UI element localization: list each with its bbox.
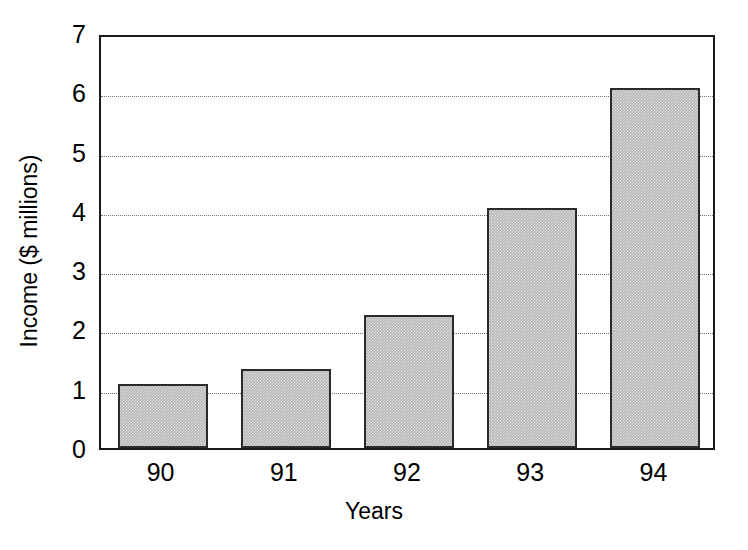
- x-tick-label: 90: [101, 460, 221, 485]
- y-tick-label: 4: [26, 200, 86, 225]
- plot-area: [99, 35, 715, 450]
- y-tick-label: 0: [26, 437, 86, 462]
- y-tick-label: 1: [26, 378, 86, 403]
- bar-90: [118, 384, 208, 448]
- x-axis-title: Years: [0, 500, 748, 523]
- y-tick-label: 6: [26, 81, 86, 106]
- bar-92: [364, 315, 454, 448]
- bar-93: [487, 208, 577, 448]
- x-tick-label: 92: [347, 460, 467, 485]
- y-tick-label: 3: [26, 259, 86, 284]
- x-tick-label: 94: [593, 460, 713, 485]
- bars: [101, 37, 713, 448]
- bar-chart: Income ($ millions) 01234567 9091929394 …: [0, 0, 748, 550]
- y-tick-label: 2: [26, 318, 86, 343]
- bar-94: [610, 88, 700, 448]
- x-axis-tick-labels: 9091929394: [0, 460, 748, 494]
- bar-91: [241, 369, 331, 448]
- y-tick-label: 7: [26, 22, 86, 47]
- x-tick-label: 91: [224, 460, 344, 485]
- x-tick-label: 93: [470, 460, 590, 485]
- y-tick-label: 5: [26, 141, 86, 166]
